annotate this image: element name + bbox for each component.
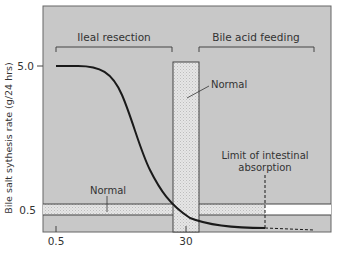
- normal-label-vertical: Normal: [211, 79, 247, 90]
- chart: Ileal resection Bile acid feeding Normal…: [0, 0, 340, 254]
- normal-bar-vertical: [173, 62, 199, 232]
- normal-band-horizontal: [43, 204, 265, 215]
- phase-label-ileal-resection: Ileal resection: [77, 31, 151, 43]
- limit-label-line2: absorption: [238, 162, 291, 173]
- limit-label-line1: Limit of intestinal: [221, 150, 308, 161]
- normal-label-horizontal: Normal: [90, 185, 126, 196]
- xtick-0-5: 0.5: [48, 235, 65, 247]
- xtick-30: 30: [179, 235, 192, 247]
- phase-label-bile-acid-feeding: Bile acid feeding: [212, 31, 299, 43]
- white-band-region: [265, 204, 331, 215]
- ytick-5-0: 5.0: [17, 60, 34, 72]
- ytick-0-5: 0.5: [19, 204, 36, 216]
- y-axis-label: Bile salt sythesis rate (g/24 hrs): [3, 62, 14, 213]
